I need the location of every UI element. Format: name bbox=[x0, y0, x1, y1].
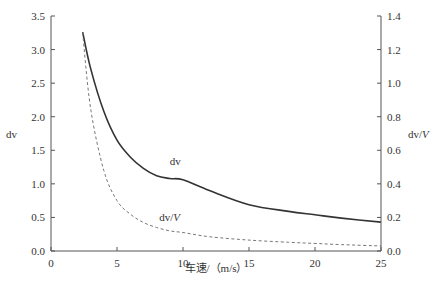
v-text: V bbox=[422, 128, 430, 140]
dual-axis-line-chart: dvdv/V 0.00.51.01.52.02.53.03.50.00.20.4… bbox=[0, 0, 439, 294]
y-left-tick-label: 2.0 bbox=[31, 111, 45, 123]
y-right-tick-label: 0.0 bbox=[387, 245, 401, 257]
x-tick-label: 20 bbox=[310, 257, 322, 269]
y-right-tick-label: 0.2 bbox=[387, 211, 401, 223]
y-axis-right-label: dv/V bbox=[408, 128, 430, 140]
y-left-tick-label: 1.5 bbox=[31, 144, 45, 156]
y-left-tick-label: 0.5 bbox=[31, 211, 45, 223]
plot-curves: dvdv/V bbox=[83, 32, 381, 246]
y-axis-left-label: dv bbox=[6, 128, 18, 140]
x-tick-label: 25 bbox=[376, 257, 388, 269]
dv-over-v-curve bbox=[83, 33, 381, 246]
dv-over-v-curve-label: dv/V bbox=[159, 211, 181, 223]
y-right-tick-label: 0.8 bbox=[387, 111, 401, 123]
dv-curve bbox=[83, 32, 381, 222]
y-left-tick-label: 1.0 bbox=[31, 178, 45, 190]
x-tick-label: 5 bbox=[114, 257, 120, 269]
y-right-tick-label: 1.2 bbox=[387, 44, 401, 56]
dv-curve-label: dv bbox=[170, 155, 182, 167]
y-left-tick-label: 3.0 bbox=[31, 44, 45, 56]
y-right-tick-label: 0.6 bbox=[387, 144, 401, 156]
y-left-tick-label: 0.0 bbox=[31, 245, 45, 257]
y-right-tick-label: 1.0 bbox=[387, 77, 401, 89]
x-axis-label: 车速/（m/s） bbox=[185, 261, 248, 274]
y-left-tick-label: 3.5 bbox=[31, 10, 45, 22]
dv-text: dv/ bbox=[408, 128, 423, 140]
x-tick-label: 0 bbox=[48, 257, 54, 269]
y-right-tick-label: 1.4 bbox=[387, 10, 401, 22]
y-left-tick-label: 2.5 bbox=[31, 77, 45, 89]
y-right-tick-label: 0.4 bbox=[387, 178, 401, 190]
